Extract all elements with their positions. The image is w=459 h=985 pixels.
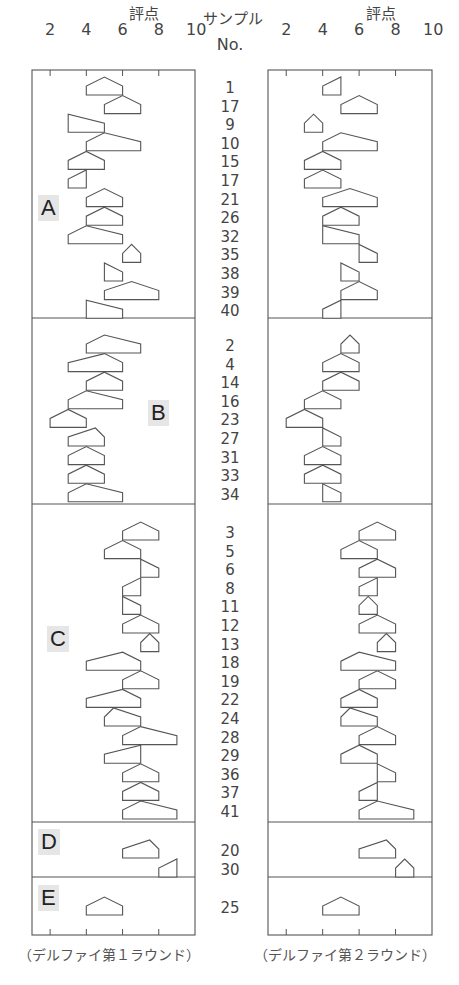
range-shape-C-5-r1 [104, 541, 140, 559]
range-shape-C-29-r2 [341, 745, 377, 763]
sample-number: 13 [200, 636, 260, 654]
sample-number: 9 [200, 116, 260, 134]
range-shape-B-27-r1 [68, 428, 104, 446]
range-shape-B-27-r2 [323, 428, 341, 446]
range-shape-C-18-r2 [341, 652, 396, 670]
sample-number: 30 [200, 861, 260, 879]
range-shape-B-14-r1 [86, 372, 122, 390]
range-shape-A-26-r1 [86, 207, 122, 225]
range-shape-C-28-r2 [359, 727, 396, 745]
range-shape-A-32-r1 [68, 226, 122, 244]
range-shape-A-32-r2 [323, 226, 359, 244]
group-label-e: E [38, 885, 59, 911]
sample-number: 4 [200, 356, 260, 374]
sample-number: 41 [200, 803, 260, 821]
sample-number: 25 [200, 899, 260, 917]
range-shape-D-30-r2 [396, 859, 414, 877]
range-shape-A-1-r1 [86, 77, 122, 95]
range-shape-C-11-r2 [359, 596, 377, 614]
sample-number: 37 [200, 784, 260, 802]
range-shape-C-41-r1 [123, 801, 177, 819]
range-shape-C-13-r1 [141, 634, 159, 652]
range-shape-D-20-r1 [123, 840, 159, 858]
sample-number: 14 [200, 374, 260, 392]
group-label-d: D [38, 829, 60, 855]
range-shape-A-26-r2 [323, 207, 359, 225]
range-shape-B-34-r2 [323, 484, 341, 502]
range-shape-C-19-r1 [123, 671, 159, 689]
sample-number: 10 [200, 135, 260, 153]
range-shape-C-8-r2 [359, 578, 377, 596]
range-shape-E-25-r1 [86, 897, 122, 915]
range-shape-E-25-r2 [323, 897, 359, 915]
range-shape-C-24-r1 [104, 708, 140, 726]
sample-number: 2 [200, 337, 260, 355]
range-shape-A-17-r1 [68, 170, 86, 188]
sample-number: 6 [200, 561, 260, 579]
range-shape-B-14-r2 [323, 372, 359, 390]
range-shape-C-24-r2 [341, 708, 377, 726]
sample-number: 21 [200, 191, 260, 209]
range-shape-A-15-r1 [68, 151, 104, 169]
range-shape-C-37-r2 [359, 782, 377, 800]
no-header: No. [200, 36, 260, 54]
range-shape-D-30-r1 [159, 859, 177, 877]
sample-number: 17 [200, 98, 260, 116]
range-shape-A-17-r1 [104, 96, 140, 114]
range-shape-A-15-r2 [304, 151, 341, 169]
range-shape-A-17-r2 [341, 96, 377, 114]
sample-number: 15 [200, 153, 260, 171]
range-shape-B-4-r1 [68, 354, 122, 372]
range-shape-A-40-r1 [86, 300, 122, 318]
range-shape-D-20-r2 [359, 840, 396, 858]
range-shape-A-9-r1 [68, 114, 104, 132]
tick-label-6: 6 [118, 20, 128, 39]
sample-number: 36 [200, 766, 260, 784]
range-shape-B-2-r1 [86, 335, 140, 353]
range-shape-C-3-r2 [359, 522, 396, 540]
range-shape-C-22-r2 [341, 689, 377, 707]
range-shape-A-17-r2 [304, 170, 341, 188]
sample-number: 11 [200, 598, 260, 616]
sample-number: 34 [200, 486, 260, 504]
caption-round2: （デルファイ第２ラウンド） [254, 944, 436, 964]
sample-number: 33 [200, 467, 260, 485]
caption-round1: （デルファイ第１ラウンド） [18, 944, 200, 964]
sample-number: 1 [200, 79, 260, 97]
range-shape-A-21-r1 [86, 189, 122, 207]
range-shape-B-31-r1 [68, 447, 104, 465]
tick-label-10: 10 [423, 20, 443, 39]
sample-number: 31 [200, 449, 260, 467]
range-shape-C-36-r2 [377, 764, 395, 782]
group-label-c: C [47, 626, 69, 652]
sample-label: サンプル [203, 7, 263, 28]
range-shape-C-5-r2 [341, 541, 377, 559]
range-shape-C-37-r1 [123, 782, 159, 800]
tick-label-2: 2 [45, 20, 55, 39]
range-shape-A-10-r1 [86, 133, 140, 151]
range-shape-B-16-r2 [304, 391, 341, 409]
range-shape-C-29-r1 [104, 745, 140, 763]
range-shape-C-22-r1 [86, 689, 140, 707]
range-shape-C-28-r1 [123, 727, 177, 745]
tick-label-2: 2 [281, 20, 291, 39]
sample-number: 40 [200, 302, 260, 320]
tick-label-10: 10 [186, 20, 206, 39]
range-shape-B-33-r1 [68, 465, 104, 483]
range-shape-A-40-r2 [323, 300, 341, 318]
sample-number: 38 [200, 265, 260, 283]
sample-number: 39 [200, 284, 260, 302]
range-shape-A-35-r1 [123, 244, 141, 262]
sample-number: 3 [200, 524, 260, 542]
range-shape-C-6-r2 [359, 559, 396, 577]
range-shape-C-3-r1 [123, 522, 159, 540]
range-shape-C-13-r2 [377, 634, 395, 652]
sample-number: 16 [200, 393, 260, 411]
range-shape-C-8-r1 [123, 578, 141, 596]
range-shape-C-12-r2 [359, 615, 396, 633]
sample-number: 28 [200, 729, 260, 747]
range-shape-C-12-r1 [123, 615, 159, 633]
tick-label-4: 4 [81, 20, 91, 39]
tick-label-6: 6 [354, 20, 364, 39]
sample-number: 8 [200, 580, 260, 598]
